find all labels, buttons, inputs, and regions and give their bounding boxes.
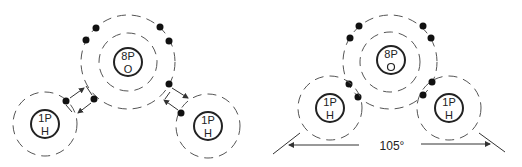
bond-angle-indicator: 105°: [273, 133, 505, 154]
hydrogen-protons-label: 1P: [442, 96, 455, 108]
electron: [166, 38, 173, 45]
hydrogen-atom-right-2: 1P H: [417, 76, 481, 140]
electron: [356, 23, 363, 30]
electron: [178, 110, 185, 117]
arrow-icon: [70, 88, 84, 98]
hydrogen-protons-label: 1P: [38, 112, 51, 124]
oxygen-atom-left: 8P O: [81, 15, 175, 109]
left-diagram: 8P O 1P H 1P H: [13, 15, 240, 158]
electron: [428, 35, 435, 42]
water-molecule-diagram: 8P O 1P H 1P H: [0, 0, 522, 167]
hydrogen-symbol-label: H: [204, 127, 212, 139]
oxygen-symbol-label: O: [124, 63, 133, 75]
electron: [420, 92, 427, 99]
bond-angle-label: 105°: [380, 139, 405, 153]
arrow-icon: [172, 88, 188, 98]
hydrogen-protons-label: 1P: [201, 114, 214, 126]
hydrogen-symbol-label: H: [41, 125, 49, 137]
electron: [420, 23, 427, 30]
electron-sharing-arrows: [66, 86, 188, 113]
electron: [347, 35, 354, 42]
hydrogen-symbol-label: H: [326, 109, 334, 121]
arrow-icon: [78, 103, 91, 113]
electron: [166, 81, 173, 88]
oxygen-protons-label: 8P: [121, 50, 134, 62]
hydrogen-protons-label: 1P: [323, 96, 336, 108]
oxygen-atom-right: 8P: [343, 15, 437, 109]
electron: [83, 37, 90, 44]
electron: [355, 94, 362, 101]
electron: [91, 96, 98, 103]
bracket-line: [165, 92, 170, 99]
oxygen-protons-label: 8P: [384, 48, 397, 60]
electron: [157, 24, 164, 31]
hydrogen-symbol-label: H: [445, 109, 453, 121]
right-diagram: 8P 1P H 1P H 105°: [273, 15, 505, 154]
hydrogen-atom-right-1: 1P H: [298, 76, 362, 140]
hydrogen-atom-left-1: 1P H: [13, 92, 77, 156]
angle-line-left: [273, 133, 300, 154]
angle-line-right: [479, 133, 505, 152]
arrow-icon: [164, 100, 178, 110]
electron: [93, 25, 100, 32]
electron: [63, 98, 70, 105]
hydrogen-atom-left-2: 1P H: [176, 94, 240, 158]
